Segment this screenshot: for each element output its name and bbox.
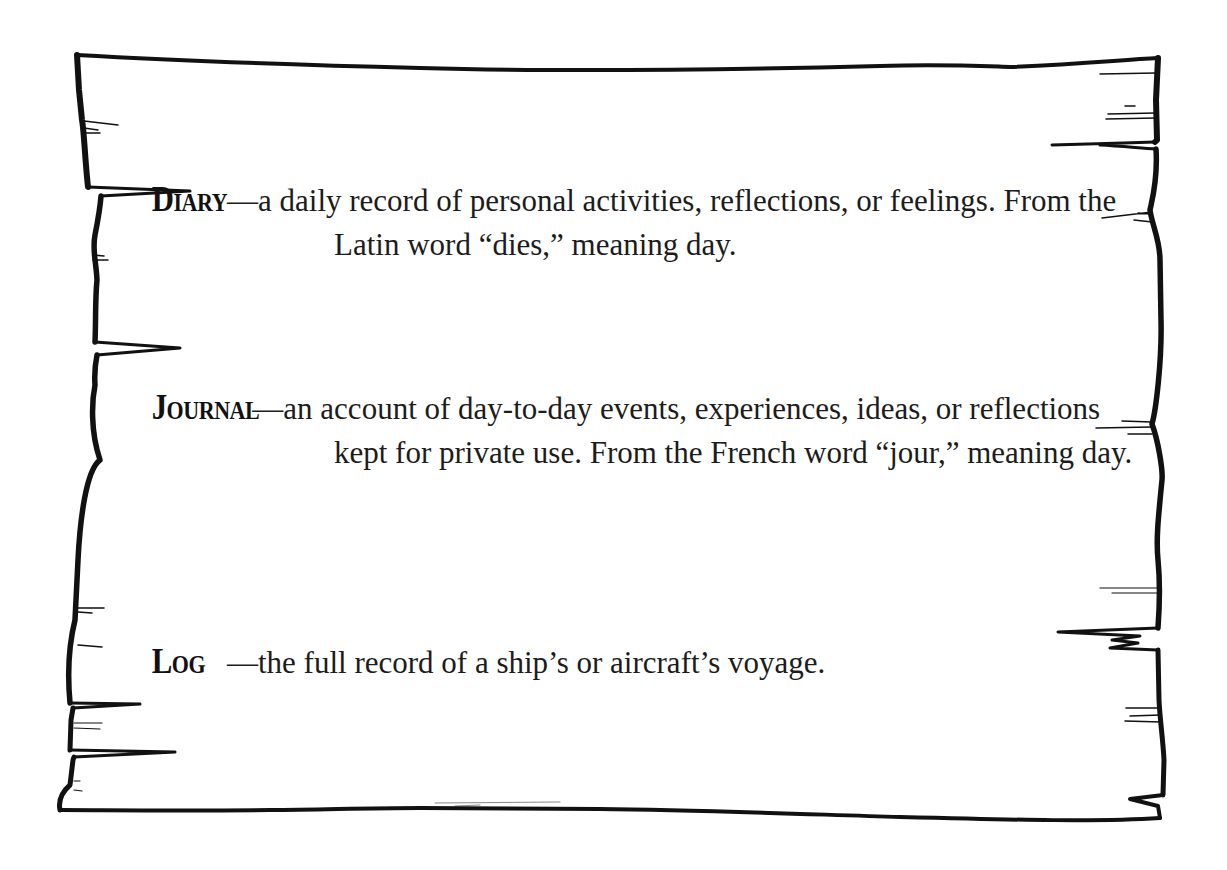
definition-text-journal: an account of day-to-day events, experie…: [283, 391, 1132, 470]
definition-journal: Journal—an account of day-to-day events,…: [237, 386, 1134, 475]
definition-text-log: the full record of a ship’s or aircraft’…: [258, 645, 825, 680]
em-dash: —: [227, 645, 258, 680]
term-journal: Journal: [237, 386, 259, 430]
em-dash: —: [227, 183, 258, 218]
definition-text-diary: a daily record of personal activities, r…: [258, 183, 1116, 262]
definition-diary: Diary—a daily record of personal activit…: [237, 178, 1134, 267]
definition-log: Log—the full record of a ship’s or aircr…: [237, 640, 1134, 685]
